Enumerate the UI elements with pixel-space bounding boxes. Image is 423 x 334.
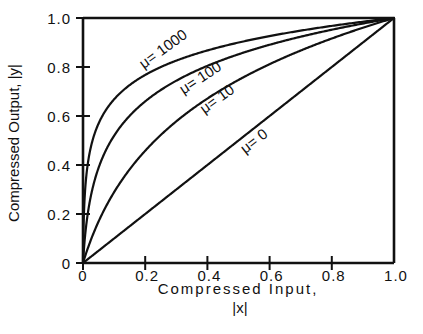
x-tick-label: 0.2 bbox=[135, 267, 159, 284]
x-tick-label: 0 bbox=[78, 267, 87, 284]
y-tick-label: 0.6 bbox=[47, 108, 71, 125]
y-tick-label: 0.8 bbox=[47, 59, 71, 76]
y-tick-label: 0.4 bbox=[47, 157, 71, 174]
x-tick-label: 1.0 bbox=[384, 267, 408, 284]
x-axis-label: Compressed Input, bbox=[158, 280, 319, 297]
curve-label-mu-0: μ= 0 bbox=[237, 125, 271, 157]
ticks bbox=[76, 18, 332, 270]
y-tick-label: 0.2 bbox=[47, 206, 71, 223]
x-tick-label: 0.8 bbox=[322, 267, 346, 284]
x-axis-label-sub: |x| bbox=[232, 299, 247, 316]
y-tick-label: 1.0 bbox=[47, 10, 71, 27]
mu-law-compression-chart: 00.20.40.60.81.000.20.40.60.81.0 μ= 1000… bbox=[0, 0, 423, 334]
curve-label-mu-1000: μ= 1000 bbox=[136, 26, 190, 72]
y-tick-label: 0 bbox=[62, 255, 71, 272]
y-axis-label: Compressed Output, |y| bbox=[5, 64, 22, 222]
